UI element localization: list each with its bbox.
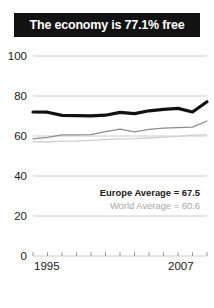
chart-card: The economy is 77.1% free 020406080100 E…: [0, 0, 214, 308]
page-title: The economy is 77.1% free: [30, 18, 185, 32]
series-line-country: [33, 102, 207, 116]
y-axis-tick-label: 0: [21, 250, 27, 262]
x-axis-label-start: 1995: [34, 260, 60, 272]
legend-world-average: World Average = 60.6: [110, 200, 200, 211]
y-axis-tick-label: 80: [14, 90, 27, 102]
y-axis-tick-label: 20: [14, 210, 27, 222]
gridlines-group: [33, 56, 207, 256]
y-axis-tick-label: 40: [14, 170, 27, 182]
chart-title-banner: The economy is 77.1% free: [14, 13, 200, 37]
y-axis-tick-label: 100: [8, 50, 27, 62]
y-axis-tick-labels: 020406080100: [8, 50, 27, 262]
line-chart-svg: 020406080100 Europe Average = 67.5 World…: [0, 48, 214, 273]
legend-europe-average: Europe Average = 67.5: [100, 187, 200, 198]
y-axis-tick-label: 60: [14, 130, 27, 142]
x-axis-label-end: 2007: [168, 260, 194, 272]
x-axis-ticks: [33, 252, 207, 256]
plot-area: 020406080100 Europe Average = 67.5 World…: [0, 48, 214, 273]
